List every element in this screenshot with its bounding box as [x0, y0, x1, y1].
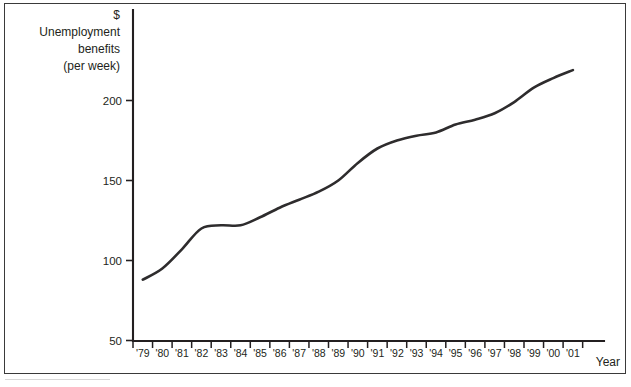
y-axis-title-line-currency: $	[113, 8, 120, 22]
x-tick-label: '00	[546, 347, 560, 359]
y-tick-label-200: 200	[103, 95, 122, 107]
y-axis-tick-labels: 200 150 100 50	[103, 95, 122, 347]
data-series-line	[143, 70, 573, 280]
y-axis-title-line-benefits: benefits	[78, 42, 120, 56]
x-tick-label: '96	[468, 347, 482, 359]
x-tick-label: '83	[214, 347, 228, 359]
x-tick-label: '84	[234, 347, 248, 359]
x-tick-label: '86	[273, 347, 287, 359]
x-tick-label: '80	[155, 347, 169, 359]
x-tick-label: '92	[390, 347, 404, 359]
x-tick-label: '99	[527, 347, 541, 359]
x-tick-label: '91	[371, 347, 385, 359]
x-tick-label: '85	[253, 347, 267, 359]
x-tick-label: '87	[292, 347, 306, 359]
x-tick-label: '90	[351, 347, 365, 359]
page-edge-artifact	[5, 379, 110, 380]
x-axis-title: Year	[596, 355, 620, 369]
y-axis-title-line-unemployment: Unemployment	[39, 25, 120, 39]
x-tick-label: '79	[136, 347, 150, 359]
x-tick-label: '97	[488, 347, 502, 359]
y-tick-label-50: 50	[109, 335, 122, 347]
x-tick-label: '81	[175, 347, 189, 359]
x-tick-label: '98	[507, 347, 521, 359]
x-tick-label: '89	[331, 347, 345, 359]
x-tick-label: '95	[449, 347, 463, 359]
x-tick-label: '94	[429, 347, 443, 359]
x-tick-label: '88	[312, 347, 326, 359]
y-axis-title-line-perweek: (per week)	[63, 59, 120, 73]
x-tick-label: '93	[410, 347, 424, 359]
x-tick-label: '01	[566, 347, 580, 359]
y-tick-label-150: 150	[103, 175, 122, 187]
line-chart: $ Unemployment benefits (per week) 200 1…	[0, 0, 631, 387]
chart-figure: $ Unemployment benefits (per week) 200 1…	[0, 0, 631, 387]
x-axis-tick-labels: '79'80'81'82'83'84'85'86'87'88'89'90'91'…	[136, 347, 580, 359]
y-tick-label-100: 100	[103, 255, 122, 267]
x-tick-label: '82	[195, 347, 209, 359]
